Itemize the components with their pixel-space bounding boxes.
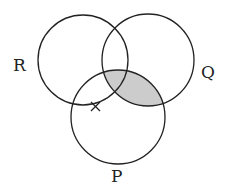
label-q: Q [201,62,215,82]
venn-diagram [0,0,226,189]
label-p: P [111,166,122,186]
label-r: R [13,55,26,75]
